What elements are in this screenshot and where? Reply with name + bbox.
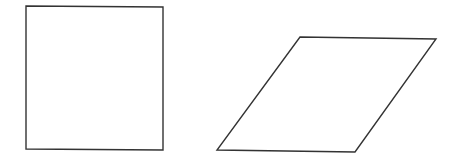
parallelogram-shape xyxy=(217,37,436,152)
square-shape xyxy=(26,6,163,150)
diagram-canvas xyxy=(0,0,458,165)
